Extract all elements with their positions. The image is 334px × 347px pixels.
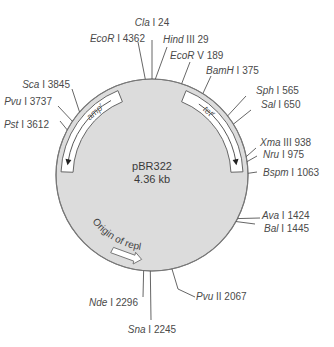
enzyme-name: Hind <box>163 34 184 45</box>
restriction-site: Bal I 1445 <box>236 222 310 234</box>
enzyme-numeral-position: III 29 <box>184 34 209 45</box>
site-leader-line <box>150 271 151 320</box>
site-leader-line <box>238 218 260 219</box>
site-leader-line <box>138 42 145 79</box>
site-label: Pvu II 2067 <box>196 291 247 302</box>
enzyme-name: Nde <box>89 297 108 308</box>
site-leader-line <box>143 271 144 297</box>
restriction-site: Pvu I 3737 <box>4 96 72 121</box>
site-leader-line <box>172 269 195 297</box>
site-label: Nru I 975 <box>263 149 305 160</box>
enzyme-numeral-position: I 1424 <box>279 210 310 221</box>
site-label: EcoR V 189 <box>170 50 224 61</box>
enzyme-name: Pst <box>4 119 20 130</box>
enzyme-name: Nru <box>263 149 280 160</box>
site-leader-line <box>248 172 257 173</box>
site-label: BamH I 375 <box>206 65 259 76</box>
site-leader-line <box>182 62 190 84</box>
restriction-site: EcoR I 4362 <box>90 33 145 79</box>
enzyme-name: Sna <box>128 324 146 335</box>
site-label: Nde I 2296 <box>89 297 138 308</box>
restriction-site: Nde I 2296 <box>89 271 144 308</box>
restriction-site: Pvu II 2067 <box>172 269 247 302</box>
enzyme-numeral-position: I 565 <box>274 85 299 96</box>
enzyme-name: Bspm <box>263 167 289 178</box>
site-label: Hind III 29 <box>163 34 209 45</box>
enzyme-name: Pvu <box>4 96 22 107</box>
enzyme-numeral-position: I 2296 <box>107 297 138 308</box>
plasmid-map: ampr tetr Origin of replication pBR322 4… <box>0 0 334 347</box>
site-leader-line <box>246 148 256 157</box>
restriction-site: Bspm I 1063 <box>248 167 320 178</box>
enzyme-numeral-position: I 1063 <box>289 167 320 178</box>
site-leader-line <box>236 222 255 224</box>
restriction-site: Pst I 3612 <box>4 119 67 130</box>
site-label: Xma III 938 <box>259 137 312 148</box>
site-label: Bspm I 1063 <box>263 167 320 178</box>
site-label: Sca I 3845 <box>22 79 70 90</box>
site-label: Pvu I 3737 <box>4 96 52 107</box>
site-label: EcoR I 4362 <box>90 33 145 44</box>
enzyme-name: Pvu <box>196 291 214 302</box>
restriction-site: Nru I 975 <box>247 149 305 162</box>
site-leader-line <box>72 89 80 112</box>
site-label: Sal I 650 <box>261 99 301 110</box>
site-leader-line <box>60 121 67 130</box>
plasmid-name: pBR322 <box>132 160 172 172</box>
site-leader-line <box>203 76 211 94</box>
enzyme-numeral-position: III 938 <box>281 137 312 148</box>
enzyme-numeral-position: I 3612 <box>18 119 49 130</box>
site-leader-line <box>228 96 246 116</box>
enzyme-numeral-position: I 24 <box>150 17 170 28</box>
site-leader-line <box>233 110 251 124</box>
enzyme-numeral-position: II 2067 <box>213 291 247 302</box>
enzyme-numeral-position: I 3737 <box>21 96 52 107</box>
site-label: Sph I 565 <box>256 85 299 96</box>
enzyme-numeral-position: I 4362 <box>114 33 145 44</box>
site-label: Pst I 3612 <box>4 119 49 130</box>
enzyme-name: Xma <box>259 137 281 148</box>
restriction-site: Cla I 24 <box>135 17 170 79</box>
enzyme-name: Ava <box>261 210 279 221</box>
enzyme-numeral-position: I 975 <box>279 149 304 160</box>
enzyme-name: Sal <box>261 99 276 110</box>
site-label: Ava I 1424 <box>261 210 310 221</box>
enzyme-name: Bal <box>264 223 279 234</box>
enzyme-name: Sca <box>22 79 40 90</box>
enzyme-name: Cla <box>135 17 150 28</box>
restriction-site: Ava I 1424 <box>238 210 311 221</box>
enzyme-numeral-position: V 189 <box>194 50 223 61</box>
site-leader-line <box>155 47 167 79</box>
enzyme-numeral-position: I 650 <box>275 99 300 110</box>
enzyme-numeral-position: I 2245 <box>146 324 177 335</box>
site-label: Bal I 1445 <box>264 223 309 234</box>
enzyme-name: EcoR <box>170 50 194 61</box>
enzyme-name: Sph <box>256 85 274 96</box>
restriction-site: Sal I 650 <box>233 99 300 124</box>
enzyme-name: EcoR <box>90 33 114 44</box>
site-leader-line <box>247 156 257 162</box>
enzyme-numeral-position: I 375 <box>234 65 259 76</box>
plasmid-size: 4.36 kb <box>134 173 170 185</box>
enzyme-numeral-position: I 1445 <box>278 223 309 234</box>
restriction-site: BamH I 375 <box>203 65 259 94</box>
site-label: Cla I 24 <box>135 17 170 28</box>
enzyme-name: BamH <box>206 65 235 76</box>
site-leader-line <box>58 106 72 121</box>
enzyme-numeral-position: I 3845 <box>39 79 70 90</box>
site-label: Sna I 2245 <box>128 324 177 335</box>
